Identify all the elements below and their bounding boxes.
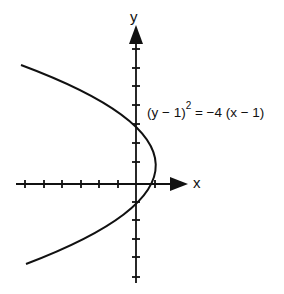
equation-exponent: 2 <box>186 100 192 111</box>
parabola-figure: y x (y − 1)2 = −4 (x − 1) <box>0 0 284 294</box>
equation-label: (y − 1)2 = −4 (x − 1) <box>147 103 264 119</box>
graph-canvas <box>0 0 284 294</box>
x-axis-label: x <box>193 175 201 190</box>
y-axis-label: y <box>130 9 138 24</box>
y-axis-arrowhead-icon <box>129 25 143 44</box>
y-axis <box>132 40 140 283</box>
equation-lhs: (y − 1) <box>147 105 186 120</box>
equation-rhs: = −4 (x − 1) <box>191 105 264 120</box>
x-axis-arrowhead-icon <box>170 177 188 191</box>
